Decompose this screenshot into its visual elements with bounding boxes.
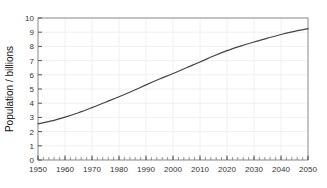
population-line-chart: 1950196019701980199020002010202020302040… [0, 0, 327, 188]
x-tick-label: 2040 [272, 165, 290, 174]
y-tick-label: 9 [30, 28, 35, 37]
y-tick-label: 2 [30, 128, 35, 137]
x-tick-label: 1990 [137, 165, 155, 174]
y-tick-label: 4 [30, 99, 35, 108]
y-tick-label: 5 [30, 85, 35, 94]
y-tick-label: 10 [25, 14, 34, 23]
y-tick-label: 6 [30, 71, 35, 80]
y-tick-label: 0 [30, 156, 35, 165]
x-tick-label: 1960 [56, 165, 74, 174]
y-axis-title: Population / billions [4, 46, 15, 132]
chart-canvas: 1950196019701980199020002010202020302040… [0, 0, 327, 188]
x-tick-label: 2020 [218, 165, 236, 174]
x-tick-label: 1950 [29, 165, 47, 174]
y-tick-label: 1 [30, 142, 35, 151]
y-axis-tick-labels: 012345678910 [25, 14, 34, 165]
x-tick-label: 1970 [83, 165, 101, 174]
x-tick-label: 2030 [245, 165, 263, 174]
x-tick-label: 2050 [299, 165, 317, 174]
y-tick-label: 3 [30, 113, 35, 122]
x-tick-label: 2000 [164, 165, 182, 174]
x-tick-label: 2010 [191, 165, 209, 174]
y-tick-label: 8 [30, 42, 35, 51]
y-tick-label: 7 [30, 57, 35, 66]
x-tick-label: 1980 [110, 165, 128, 174]
x-axis-tick-labels: 1950196019701980199020002010202020302040… [29, 165, 317, 174]
y-axis-title-group: Population / billions [4, 46, 15, 132]
